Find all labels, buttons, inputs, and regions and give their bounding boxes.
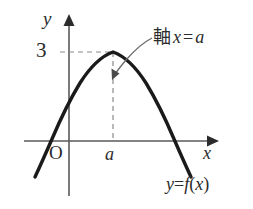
function-lhs: y (166, 174, 174, 194)
graph-canvas (0, 0, 253, 209)
y-axis-label: y (43, 9, 51, 28)
annotation-leader (112, 38, 153, 80)
y-tick-label-3: 3 (36, 40, 47, 61)
axis-annotation-variable: x (173, 27, 181, 47)
function-label: y=f(x) (166, 175, 209, 193)
function-argument: x (195, 174, 203, 194)
axis-annotation-value: a (195, 27, 204, 47)
graph-figure: y 3 O a x 軸x=a y=f(x) (0, 0, 253, 209)
y-axis-arrowhead (64, 14, 75, 26)
axis-annotation-kanji: 軸 (153, 26, 171, 47)
axis-of-symmetry-annotation: 軸x=a (153, 28, 204, 46)
x-axis-label: x (203, 144, 211, 162)
axis-annotation-equals: = (183, 27, 193, 47)
x-tick-label-a: a (105, 145, 114, 163)
origin-label: O (49, 143, 63, 162)
function-paren-close: ) (203, 174, 209, 194)
function-equals: = (174, 174, 184, 194)
